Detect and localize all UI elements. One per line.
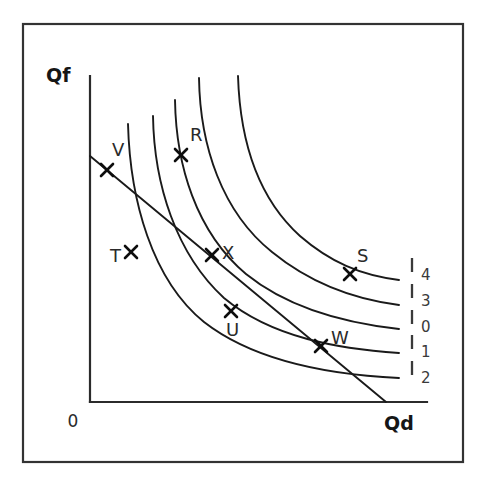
origin-label: 0: [68, 411, 79, 431]
point-label-R: R: [190, 124, 203, 145]
point-label-T: T: [109, 245, 122, 266]
point-label-U: U: [226, 319, 239, 340]
legend-label-0: 0: [421, 318, 431, 336]
legend-label-4: 4: [421, 266, 431, 284]
legend-label-2: 2: [421, 369, 431, 387]
point-label-V: V: [112, 139, 125, 160]
legend-label-3: 3: [421, 292, 431, 310]
point-label-S: S: [357, 245, 368, 266]
figure-canvas: VRTXSUW 43012 Qf Qd 0: [0, 0, 484, 477]
x-axis-title: Qd: [384, 412, 414, 434]
indifference-curve-diagram: VRTXSUW 43012 Qf Qd 0: [0, 0, 484, 477]
point-label-W: W: [331, 327, 349, 348]
y-axis-title: Qf: [46, 64, 71, 86]
legend-label-1: 1: [421, 343, 431, 361]
point-label-X: X: [222, 242, 234, 263]
